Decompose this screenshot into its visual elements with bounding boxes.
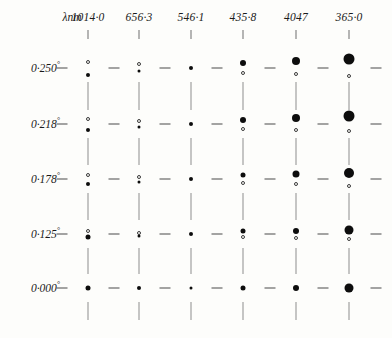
dash-r0-c4 <box>265 68 276 69</box>
dash-r3-c0 <box>57 234 68 235</box>
grid-segment-435.8-4 <box>243 302 244 320</box>
marker-0.25-656.3-lower <box>138 70 141 73</box>
marker-0.218-656.3-lower <box>138 126 141 129</box>
marker-0.178-1014-lower <box>86 182 90 186</box>
marker-0.178-435.8-upper <box>241 173 246 178</box>
dash-r1-c0 <box>57 124 68 125</box>
grid-segment-404.7-3 <box>296 248 297 274</box>
marker-0.218-1014-upper <box>86 117 90 121</box>
dash-r0-c6 <box>371 68 382 69</box>
marker-0.178-546.1-upper <box>189 177 193 181</box>
marker-0.125-435.8-upper <box>241 229 246 234</box>
tick-mark-546.1 <box>191 30 192 39</box>
dash-r0-c2 <box>160 68 171 69</box>
marker-0.178-656.3-upper <box>137 175 141 179</box>
marker-0.178-404.7-lower <box>294 182 298 186</box>
marker-0.125-546.1-upper <box>189 232 193 236</box>
grid-segment-365-1 <box>349 138 350 165</box>
grid-segment-546.1-1 <box>191 138 192 165</box>
dash-r3-c1 <box>109 234 120 235</box>
marker-0.125-1014-lower <box>86 235 91 240</box>
marker-0.25-1014-lower <box>86 73 90 77</box>
grid-segment-435.8-3 <box>243 248 244 274</box>
dash-r3-c2 <box>160 234 171 235</box>
dash-r4-c3 <box>212 288 223 289</box>
marker-0.25-546.1-upper <box>189 66 193 70</box>
grid-segment-365-2 <box>349 193 350 220</box>
marker-0.125-656.3-lower <box>138 235 141 238</box>
tick-mark-365 <box>349 30 350 39</box>
marker-0-546.1-upper <box>190 287 193 290</box>
grid-segment-365-3 <box>349 248 350 274</box>
dash-r2-c1 <box>109 179 120 180</box>
dash-r3-c5 <box>318 234 329 235</box>
marker-0.178-365-upper <box>344 168 354 178</box>
dash-r3-c6 <box>371 234 382 235</box>
dash-r2-c0 <box>57 179 68 180</box>
grid-segment-546.1-2 <box>191 193 192 220</box>
marker-0.25-1014-upper <box>86 60 90 64</box>
tick-mark-435.8 <box>243 30 244 39</box>
grid-segment-1014-3 <box>88 248 89 274</box>
marker-0.125-435.8-lower <box>241 235 245 239</box>
marker-0.218-404.7-lower <box>294 128 298 132</box>
marker-0-365-upper <box>345 284 354 293</box>
column-header-365: 365·0 <box>336 11 363 23</box>
marker-0.25-404.7-lower <box>294 72 298 76</box>
marker-0.125-1014-upper <box>86 229 90 233</box>
dash-r0-c1 <box>109 68 120 69</box>
marker-0-404.7-upper <box>293 285 299 291</box>
dash-r1-c4 <box>265 124 276 125</box>
marker-0.125-404.7-lower <box>294 236 298 240</box>
grid-segment-656.3-3 <box>139 248 140 274</box>
marker-0-656.3-upper <box>137 286 141 290</box>
dash-r0-c5 <box>318 68 329 69</box>
grid-segment-656.3-1 <box>139 138 140 165</box>
marker-0.25-435.8-lower <box>241 71 245 75</box>
marker-0.218-404.7-upper <box>292 114 300 122</box>
dash-r4-c6 <box>371 288 382 289</box>
dash-r2-c3 <box>212 179 223 180</box>
dash-r4-c4 <box>265 288 276 289</box>
marker-0-1014-upper <box>86 286 91 291</box>
grid-segment-1014-4 <box>88 302 89 320</box>
column-header-1014: 1014·0 <box>72 11 105 23</box>
marker-0.178-435.8-lower <box>241 181 245 185</box>
dash-r2-c2 <box>160 179 171 180</box>
dash-r4-c0 <box>57 288 68 289</box>
marker-0.218-546.1-upper <box>189 122 193 126</box>
marker-0.125-365-upper <box>345 226 354 235</box>
marker-0.178-365-lower <box>347 184 351 188</box>
grid-segment-435.8-2 <box>243 193 244 220</box>
dash-r0-c0 <box>57 68 68 69</box>
dash-r2-c4 <box>265 179 276 180</box>
spectral-marker-plot: λnm 1014·0656·3546·1435·84047365·0 0·250… <box>0 0 392 338</box>
dash-r1-c2 <box>160 124 171 125</box>
marker-0.25-404.7-upper <box>292 57 300 65</box>
marker-0.178-404.7-upper <box>293 171 300 178</box>
dash-r0-c3 <box>212 68 223 69</box>
dash-r1-c1 <box>109 124 120 125</box>
dash-r2-c5 <box>318 179 329 180</box>
grid-segment-404.7-4 <box>296 302 297 320</box>
dash-r4-c5 <box>318 288 329 289</box>
grid-segment-1014-2 <box>88 193 89 220</box>
grid-segment-435.8-1 <box>243 138 244 165</box>
grid-segment-1014-1 <box>88 138 89 165</box>
marker-0.218-1014-lower <box>86 128 90 132</box>
dash-r1-c3 <box>212 124 223 125</box>
marker-0.25-365-lower <box>347 74 351 78</box>
grid-segment-365-0 <box>349 82 350 110</box>
grid-segment-404.7-1 <box>296 138 297 165</box>
marker-0.218-656.3-upper <box>137 119 141 123</box>
tick-mark-404.7 <box>296 30 297 39</box>
marker-0.25-435.8-upper <box>240 60 246 66</box>
column-header-546.1: 546·1 <box>178 11 205 23</box>
grid-segment-404.7-2 <box>296 193 297 220</box>
dash-r3-c3 <box>212 234 223 235</box>
marker-0.125-404.7-upper <box>293 228 299 234</box>
marker-0.218-435.8-lower <box>241 127 245 131</box>
marker-0.125-365-lower <box>347 237 351 241</box>
grid-segment-656.3-0 <box>139 82 140 110</box>
dash-r1-c5 <box>318 124 329 125</box>
